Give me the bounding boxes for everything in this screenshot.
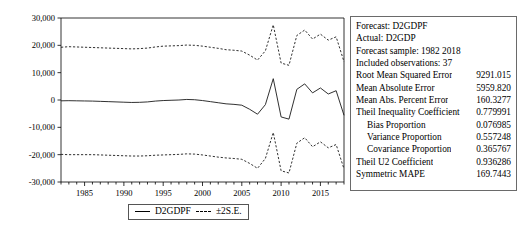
legend-label-forecast: D2GDPF	[155, 206, 191, 217]
stats-metric-label: Theil U2 Coefficient	[356, 156, 433, 168]
x-tick-label: 1985	[76, 188, 93, 198]
stats-metric-row: Bias Proportion0.076985	[356, 119, 511, 131]
forecast-statistics-panel: Forecast: D2GDPFActual: D2GDPForecast sa…	[350, 16, 517, 191]
stats-metric-label: Variance Proportion	[356, 131, 442, 143]
stats-metric-value: 169.7443	[472, 168, 511, 180]
y-tick-label: -20,000	[29, 150, 55, 160]
stats-metric-value: 9291.015	[472, 69, 511, 81]
y-tick-label: -30,000	[29, 177, 55, 187]
y-tick-label: 20,000	[32, 40, 55, 50]
legend-swatch-band-icon	[196, 211, 211, 212]
stats-metric-label: Theil Inequality Coefficient	[356, 106, 460, 118]
stats-metric-row: Theil U2 Coefficient0.936286	[356, 156, 511, 168]
stats-header-label: Actual: D2GDP	[356, 33, 416, 43]
series-line-confidence-band	[61, 25, 344, 65]
stats-header-row: Actual: D2GDP	[356, 32, 511, 44]
forecast-evaluation-view: 30,00020,00010,0000-10,000-20,000-30,000…	[0, 0, 528, 228]
legend-label-band: ±2S.E.	[216, 206, 242, 217]
y-tick-label: 0	[51, 95, 55, 105]
stats-metric-value: 0.557248	[472, 131, 511, 143]
stats-metric-value: 0.779991	[472, 106, 511, 118]
stats-metric-label: Covariance Proportion	[356, 143, 451, 155]
stats-metric-label: Mean Abs. Percent Error	[356, 94, 448, 106]
stats-metric-row: Mean Absolute Error5959.820	[356, 82, 511, 94]
stats-metric-value: 0.365767	[472, 143, 511, 155]
stats-metric-value: 0.076985	[472, 119, 511, 131]
x-tick-label: 2010	[273, 188, 290, 198]
stats-header-group: Forecast: D2GDPFActual: D2GDPForecast sa…	[356, 20, 511, 69]
stats-metric-row: Variance Proportion0.557248	[356, 131, 511, 143]
stats-header-row: Forecast: D2GDPF	[356, 20, 511, 32]
stats-header-row: Forecast sample: 1982 2018	[356, 45, 511, 57]
stats-metric-value: 5959.820	[472, 82, 511, 94]
y-tick-label: -10,000	[29, 122, 55, 132]
stats-metric-label: Bias Proportion	[356, 119, 426, 131]
y-tick-label: 30,000	[32, 13, 55, 23]
series-line-confidence-band	[61, 133, 344, 173]
stats-metric-row: Theil Inequality Coefficient0.779991	[356, 106, 511, 118]
x-tick-label: 1995	[155, 188, 172, 198]
stats-header-label: Included observations: 37	[356, 58, 452, 68]
stats-metric-label: Root Mean Squared Error	[356, 69, 452, 81]
x-tick-label: 2005	[233, 188, 250, 198]
stats-metric-value: 160.3277	[472, 94, 511, 106]
stats-metric-row: Symmetric MAPE169.7443	[356, 168, 511, 180]
x-tick-label: 2000	[194, 188, 211, 198]
stats-header-label: Forecast sample: 1982 2018	[356, 46, 461, 56]
x-tick-label: 2015	[312, 188, 329, 198]
stats-metric-row: Root Mean Squared Error9291.015	[356, 69, 511, 81]
stats-metric-row: Mean Abs. Percent Error160.3277	[356, 94, 511, 106]
chart-canvas: 30,00020,00010,0000-10,000-20,000-30,000…	[0, 0, 350, 200]
stats-metric-value: 0.936286	[472, 156, 511, 168]
chart-legend: D2GDPF ±2S.E.	[128, 204, 249, 220]
stats-header-row: Included observations: 37	[356, 57, 511, 69]
forecast-chart: 30,00020,00010,0000-10,000-20,000-30,000…	[0, 0, 350, 228]
legend-swatch-forecast-icon	[135, 211, 150, 212]
series-line-forecast	[61, 79, 344, 119]
stats-metric-row: Covariance Proportion0.365767	[356, 143, 511, 155]
stats-metric-label: Mean Absolute Error	[356, 82, 435, 94]
y-tick-label: 10,000	[32, 68, 55, 78]
plot-frame	[61, 18, 344, 182]
x-tick-label: 1990	[115, 188, 132, 198]
stats-header-label: Forecast: D2GDPF	[356, 21, 428, 31]
stats-metrics-group: Root Mean Squared Error9291.015Mean Abso…	[356, 69, 511, 180]
stats-metric-label: Symmetric MAPE	[356, 168, 425, 180]
